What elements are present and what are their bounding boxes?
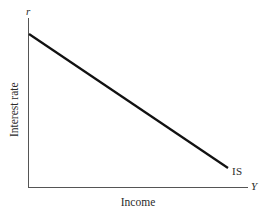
vertical-axis-symbol-label: r [26, 6, 30, 17]
vertical-axis-title: Interest rate [9, 55, 21, 165]
plot-area [0, 0, 269, 216]
is-curve-label: IS [232, 166, 243, 177]
horizontal-axis-title: Income [28, 197, 248, 209]
is-curve-line [29, 34, 228, 168]
horizontal-axis-symbol-label: Y [251, 181, 257, 192]
is-curve-figure: r Y IS Interest rate Income [0, 0, 269, 216]
